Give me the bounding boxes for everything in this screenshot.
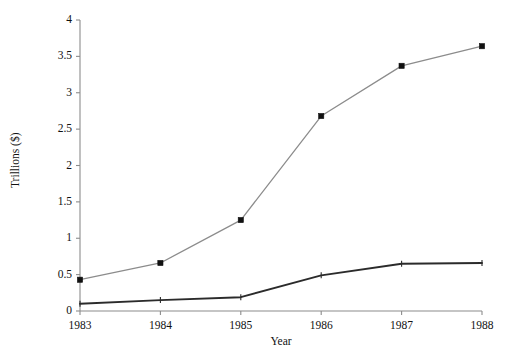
y-tick-label: 0 bbox=[30, 305, 72, 317]
x-tick-label: 1984 bbox=[149, 320, 172, 332]
y-tick-label: 3.5 bbox=[30, 51, 72, 63]
data-point-marker bbox=[238, 217, 243, 222]
data-point-marker bbox=[479, 44, 484, 49]
x-tick-label: 1985 bbox=[229, 320, 252, 332]
series-line-lower-series bbox=[80, 263, 482, 304]
y-tick-label: 1 bbox=[30, 233, 72, 245]
data-point-marker bbox=[77, 277, 82, 282]
data-point-marker bbox=[319, 113, 324, 118]
y-tick-label: 4 bbox=[30, 14, 72, 26]
plot-area bbox=[0, 0, 514, 357]
y-tick-label: 3 bbox=[30, 87, 72, 99]
x-tick-label: 1988 bbox=[471, 320, 494, 332]
y-tick-label: 2 bbox=[30, 160, 72, 172]
y-axis-title: Trillions ($) bbox=[10, 133, 22, 189]
y-tick-label: 1.5 bbox=[30, 196, 72, 208]
tick-marks bbox=[76, 20, 482, 315]
x-tick-label: 1983 bbox=[69, 320, 92, 332]
line-chart: 00.511.522.533.54 1983198419851986198719… bbox=[0, 0, 514, 357]
y-tick-label: 2.5 bbox=[30, 123, 72, 135]
x-axis-title: Year bbox=[270, 336, 291, 348]
data-point-marker bbox=[399, 63, 404, 68]
data-point-marker bbox=[158, 260, 163, 265]
x-tick-label: 1987 bbox=[390, 320, 413, 332]
series-line-upper-series bbox=[80, 46, 482, 280]
series-lines bbox=[80, 46, 482, 304]
y-tick-label: 0.5 bbox=[30, 269, 72, 281]
x-tick-label: 1986 bbox=[310, 320, 333, 332]
